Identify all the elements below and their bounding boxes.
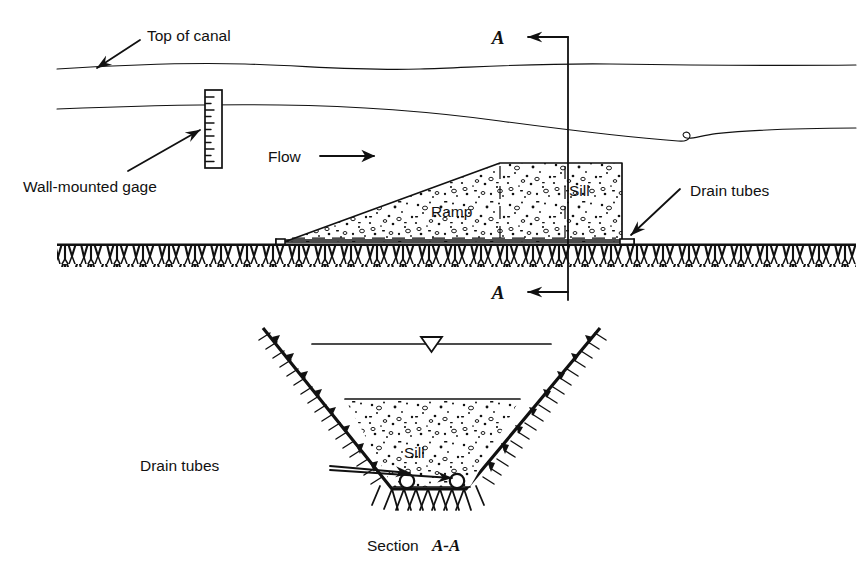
drain-tubes-label-profile: Drain tubes [690,182,770,199]
section-marker-bottom-label: A [491,282,505,303]
section-caption-id: A-A [431,536,460,555]
top-of-canal-annotation: Top of canal [97,27,231,68]
section-sill-body [345,399,520,487]
wall-mounted-gage-label: Wall-mounted gage [23,178,157,195]
section-caption-prefix: Section [367,537,419,554]
ground-hatch-band [57,246,856,267]
top-of-canal-line [57,63,856,69]
section-view: Sill Drain tubes Section A-A [140,328,606,555]
water-surface-line [57,105,856,141]
drain-tubes-label-section: Drain tubes [140,457,220,474]
section-sill [345,399,520,487]
section-marker-top-label: A [491,27,505,48]
wall-mounted-gage[interactable] [205,90,222,168]
figure-root: A A Top of canal Wall-mounted gage Flow … [0,0,858,566]
drain-tube-circle-right [450,474,464,488]
section-caption: Section A-A [367,536,460,555]
flow-annotation: Flow [268,148,374,165]
wall-mounted-gage-leader [128,130,200,171]
sill-label-section: Sill [404,444,425,461]
wall-mounted-gage-annotation: Wall-mounted gage [23,130,200,195]
top-of-canal-label: Top of canal [147,27,231,44]
profile-view: A A Top of canal Wall-mounted gage Flow … [23,27,856,303]
sill-label-profile: Sill [569,182,590,199]
drain-tubes-leader-profile [631,189,680,235]
top-of-canal-leader [97,40,140,68]
engineering-diagram: A A Top of canal Wall-mounted gage Flow … [0,0,858,566]
drain-tubes-annotation-profile: Drain tubes [631,182,770,235]
ramp-label: Ramp [431,203,472,220]
ground-surface [57,245,856,267]
flow-label: Flow [268,148,302,165]
